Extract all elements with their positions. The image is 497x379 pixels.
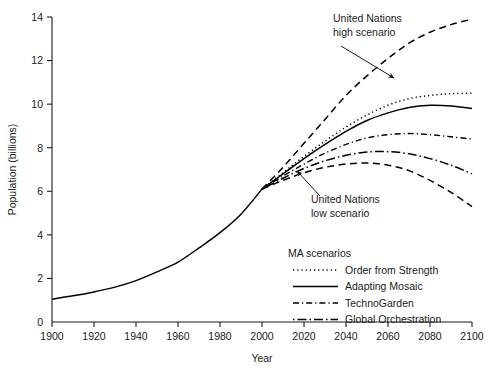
chart-canvas: 02468101214 1900192019401960198020002020… bbox=[0, 0, 497, 379]
annotation-un-low-line2: low scenario bbox=[311, 207, 370, 219]
annotation-un-high-line1: United Nations bbox=[333, 12, 402, 24]
annotation-un-high-arrow bbox=[341, 46, 394, 78]
y-tick-label: 6 bbox=[37, 185, 43, 197]
y-tick-label: 14 bbox=[31, 11, 43, 23]
x-axis-tick-labels: 1900192019401960198020002020204020602080… bbox=[40, 330, 484, 342]
y-tick-label: 8 bbox=[37, 142, 43, 154]
x-tick-label: 2060 bbox=[376, 330, 400, 342]
series-line-order-from-strength bbox=[262, 93, 472, 189]
y-tick-label: 10 bbox=[31, 98, 43, 110]
x-tick-label: 1980 bbox=[208, 330, 232, 342]
x-tick-label: 1900 bbox=[40, 330, 64, 342]
legend-title: MA scenarios bbox=[288, 247, 351, 259]
series-paths-group bbox=[52, 19, 472, 299]
legend-label-adapting-mosaic: Adapting Mosaic bbox=[345, 280, 423, 292]
annotation-un-high-line2: high scenario bbox=[333, 26, 396, 38]
series-line-historical bbox=[52, 189, 262, 299]
legend-label-order-from-strength: Order from Strength bbox=[345, 264, 439, 276]
y-tick-label: 12 bbox=[31, 54, 43, 66]
y-axis-tick-labels: 02468101214 bbox=[31, 11, 43, 328]
annotations-group: United Nationshigh scenarioUnited Nation… bbox=[297, 12, 402, 219]
x-tick-label: 2000 bbox=[250, 330, 274, 342]
series-line-global-orchestration bbox=[262, 151, 472, 189]
y-tick-label: 0 bbox=[37, 316, 43, 328]
legend-label-technogarden: TechnoGarden bbox=[345, 297, 414, 309]
x-axis-title: Year bbox=[251, 352, 273, 364]
annotation-un-low-line1: United Nations bbox=[311, 193, 380, 205]
x-tick-label: 2080 bbox=[418, 330, 442, 342]
x-tick-label: 1960 bbox=[166, 330, 190, 342]
x-tick-label: 1940 bbox=[124, 330, 148, 342]
legend-items: Order from StrengthAdapting MosaicTechno… bbox=[293, 264, 441, 326]
y-tick-label: 2 bbox=[37, 272, 43, 284]
population-projection-chart: 02468101214 1900192019401960198020002020… bbox=[0, 0, 497, 379]
legend-label-global-orchestration: Global Orchestration bbox=[345, 313, 441, 325]
y-axis-title: Population (billions) bbox=[6, 124, 18, 216]
x-tick-label: 2040 bbox=[334, 330, 358, 342]
y-tick-label: 4 bbox=[37, 229, 43, 241]
x-tick-label: 1920 bbox=[82, 330, 106, 342]
series-line-adapting-mosaic bbox=[262, 105, 472, 189]
y-axis-ticks bbox=[47, 17, 52, 278]
x-tick-label: 2100 bbox=[460, 330, 484, 342]
annotation-un-low-arrow bbox=[297, 171, 320, 196]
chart-legend: MA scenarios Order from StrengthAdapting… bbox=[288, 247, 441, 325]
x-tick-label: 2020 bbox=[292, 330, 316, 342]
